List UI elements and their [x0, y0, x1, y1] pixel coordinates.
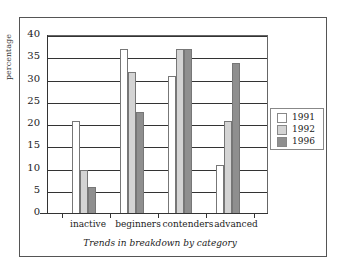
bar-inactive-1996: [88, 187, 96, 214]
legend-swatch-1996: [277, 137, 287, 147]
legend-swatch-1992: [277, 125, 287, 135]
bar-contenders-1996: [184, 49, 192, 214]
category-label-advanced: advanced: [206, 219, 266, 229]
legend-item-1992: 1992: [277, 124, 315, 135]
y-tick-label: 10: [20, 162, 40, 173]
legend-swatch-1991: [277, 113, 287, 123]
plot-area: [48, 35, 268, 214]
bar-contenders-1992: [176, 49, 184, 214]
y-axis-label: percentage: [4, 34, 13, 80]
gridline: [48, 58, 267, 59]
bar-beginners-1992: [128, 72, 136, 214]
bar-advanced-1991: [216, 165, 224, 214]
y-tick-label: 35: [20, 50, 40, 61]
x-axis: [40, 213, 268, 214]
bar-beginners-1991: [120, 49, 128, 214]
x-tick: [110, 213, 111, 218]
bar-inactive-1992: [80, 170, 88, 215]
gridline: [48, 36, 267, 37]
x-axis-title: Trends in breakdown by category: [60, 238, 260, 248]
y-tick-label: 0: [20, 206, 40, 217]
y-tick-label: 30: [20, 73, 40, 84]
y-tick-label: 20: [20, 117, 40, 128]
legend-item-1996: 1996: [277, 136, 315, 147]
bar-contenders-1991: [168, 76, 176, 214]
bar-advanced-1992: [224, 121, 232, 214]
x-tick: [206, 213, 207, 218]
y-tick-label: 25: [20, 95, 40, 106]
legend-label-1992: 1992: [292, 124, 315, 134]
legend-item-1991: 1991: [277, 112, 315, 123]
x-tick: [62, 213, 63, 218]
y-tick-label: 5: [20, 184, 40, 195]
y-axis: [47, 35, 48, 213]
y-tick-label: 15: [20, 139, 40, 150]
legend-label-1996: 1996: [292, 136, 315, 146]
bar-beginners-1996: [136, 112, 144, 214]
legend: 1991 1992 1996: [270, 108, 324, 150]
x-tick: [254, 213, 255, 218]
x-tick: [158, 213, 159, 218]
bar-advanced-1996: [232, 63, 240, 214]
y-tick-label: 40: [20, 28, 40, 39]
legend-label-1991: 1991: [292, 112, 315, 122]
bar-inactive-1991: [72, 121, 80, 214]
